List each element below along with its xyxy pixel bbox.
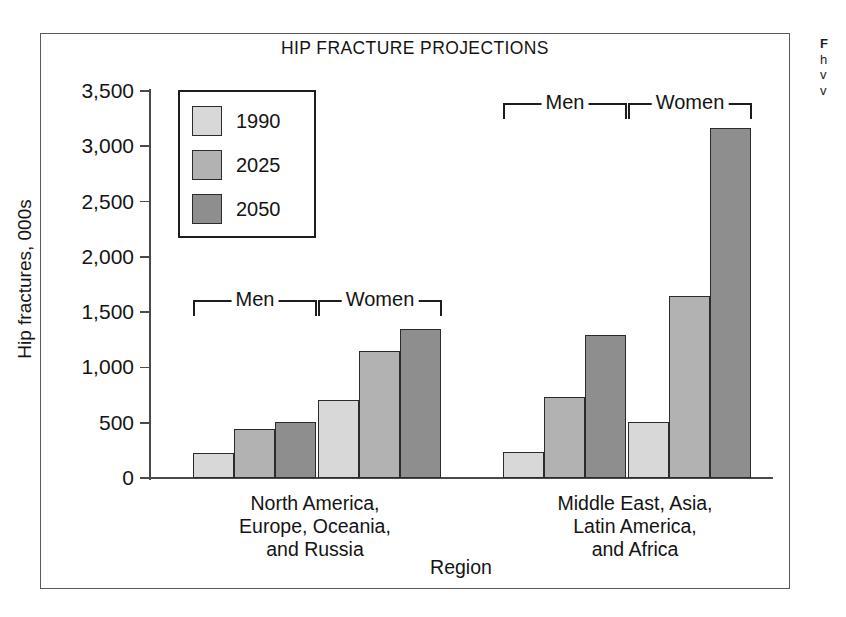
y-tick-label: 1,000 — [42, 355, 134, 379]
legend-label-2050: 2050 — [236, 198, 281, 221]
bracket-label: Women — [342, 288, 419, 310]
y-tick-mark — [140, 256, 150, 258]
side-caption-line-4: v — [820, 83, 846, 99]
y-tick-label: 0 — [42, 466, 134, 490]
category-label-region-1-line-1: North America, — [190, 492, 440, 515]
bracket-tick-right — [625, 105, 627, 119]
side-caption-line-3: v — [820, 67, 846, 83]
category-label-region-1: North America, Europe, Oceania, and Russ… — [190, 492, 440, 561]
bar — [585, 335, 626, 478]
chart-title: HIP FRACTURE PROJECTIONS — [40, 38, 790, 59]
side-caption: F h v v — [820, 36, 846, 98]
y-tick-mark — [140, 477, 150, 479]
y-axis-tick-labels: 3,5003,0002,5002,0001,5001,0005000 — [22, 0, 134, 617]
legend-item-1990: 1990 — [192, 106, 281, 136]
bracket-label: Men — [232, 288, 279, 310]
legend-label-2025: 2025 — [236, 154, 281, 177]
group-bracket: Men — [193, 300, 317, 316]
category-label-region-2: Middle East, Asia, Latin America, and Af… — [505, 492, 765, 561]
bar — [275, 422, 316, 478]
bracket-tick-left — [318, 302, 320, 316]
bar — [234, 429, 275, 478]
bracket-label: Women — [652, 91, 729, 113]
y-tick-label: 2,000 — [42, 245, 134, 269]
bracket-line-right — [725, 103, 752, 105]
bracket-tick-right — [750, 105, 752, 119]
bar — [669, 296, 710, 478]
bar — [628, 422, 669, 478]
y-tick-mark — [140, 422, 150, 424]
y-tick-mark — [140, 90, 150, 92]
side-caption-line-1: F — [820, 36, 846, 52]
bracket-tick-right — [440, 302, 442, 316]
y-tick-mark — [140, 367, 150, 369]
bar — [710, 128, 751, 478]
legend-swatch-2050 — [192, 194, 222, 224]
y-axis-title: Hip fractures, 000s — [14, 179, 36, 379]
bar — [503, 452, 544, 478]
bar — [544, 397, 585, 478]
group-bracket: Women — [628, 103, 752, 119]
y-tick-label: 2,500 — [42, 190, 134, 214]
bracket-tick-left — [503, 105, 505, 119]
bracket-tick-left — [193, 302, 195, 316]
y-tick-mark — [140, 201, 150, 203]
bracket-label: Men — [542, 91, 589, 113]
y-tick-mark — [140, 311, 150, 313]
legend-swatch-1990 — [192, 106, 222, 136]
bar — [318, 400, 359, 478]
bracket-line-right — [415, 300, 442, 302]
bracket-tick-left — [628, 105, 630, 119]
bracket-tick-right — [315, 302, 317, 316]
bar — [193, 453, 234, 478]
bracket-line-right — [278, 300, 317, 302]
side-caption-line-2: h — [820, 52, 846, 68]
bracket-line-left — [503, 103, 542, 105]
y-tick-mark — [140, 145, 150, 147]
y-tick-label: 3,000 — [42, 134, 134, 158]
chart-canvas: HIP FRACTURE PROJECTIONS 3,5003,0002,500… — [0, 0, 846, 617]
x-axis-title: Region — [150, 556, 772, 579]
category-label-region-2-line-2: Latin America, — [505, 515, 765, 538]
legend-item-2025: 2025 — [192, 150, 281, 180]
group-bracket: Men — [503, 103, 627, 119]
y-tick-label: 1,500 — [42, 300, 134, 324]
y-tick-label: 500 — [42, 411, 134, 435]
bar — [359, 351, 400, 478]
bracket-line-left — [193, 300, 232, 302]
bar — [400, 329, 441, 478]
bracket-line-right — [588, 103, 627, 105]
legend-swatch-2025 — [192, 150, 222, 180]
legend: 1990 2025 2050 — [178, 90, 316, 238]
group-bracket: Women — [318, 300, 442, 316]
category-label-region-1-line-2: Europe, Oceania, — [190, 515, 440, 538]
legend-label-1990: 1990 — [236, 110, 281, 133]
legend-item-2050: 2050 — [192, 194, 281, 224]
category-label-region-2-line-1: Middle East, Asia, — [505, 492, 765, 515]
y-tick-label: 3,500 — [42, 79, 134, 103]
